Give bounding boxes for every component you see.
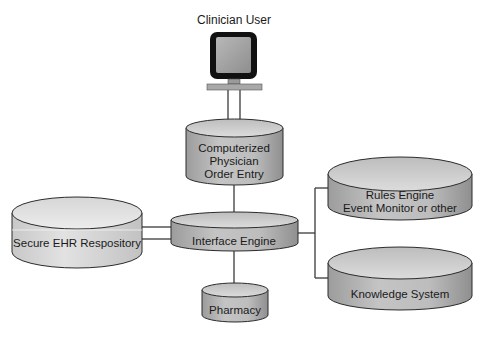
rules-engine-label-line-1: Rules Engine bbox=[366, 189, 434, 201]
monitor-screen bbox=[216, 37, 251, 73]
keyboard bbox=[207, 84, 262, 90]
ehr-label: Secure EHR Respository bbox=[13, 237, 141, 249]
node-interface-engine[interactable]: Interface Engine bbox=[171, 212, 298, 251]
rules-engine-label-line-2: Event Monitor or other bbox=[343, 202, 457, 214]
node-ehr-repository[interactable]: Secure EHR Respository bbox=[12, 197, 142, 268]
clinician-user-label: Clinician User bbox=[197, 13, 271, 27]
pharmacy-label: Pharmacy bbox=[209, 304, 261, 316]
node-pharmacy[interactable]: Pharmacy bbox=[202, 283, 268, 322]
cpoe-label-line-3: Order Entry bbox=[204, 168, 264, 180]
node-cpoe[interactable]: Computerized Physician Order Entry bbox=[186, 119, 283, 185]
cpoe-label-line-1: Computerized bbox=[198, 142, 270, 154]
node-rules-engine[interactable]: Rules Engine Event Monitor or other bbox=[328, 157, 472, 220]
computer-workstation-icon bbox=[207, 32, 262, 90]
cpoe-label-line-2: Physician bbox=[209, 155, 258, 167]
interface-engine-label: Interface Engine bbox=[192, 235, 276, 247]
knowledge-system-label: Knowledge System bbox=[351, 288, 449, 300]
clinician-user[interactable]: Clinician User bbox=[197, 13, 271, 90]
monitor-stand bbox=[228, 79, 240, 84]
node-knowledge-system[interactable]: Knowledge System bbox=[328, 247, 472, 310]
system-diagram: Clinician User Computerized Physician Or… bbox=[0, 0, 490, 340]
